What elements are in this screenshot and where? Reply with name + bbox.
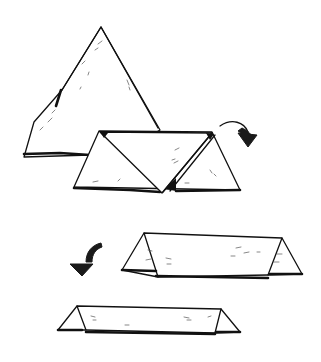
folding-diagram: [0, 0, 321, 362]
step-3-prism: [122, 233, 302, 278]
curved-arrow-left-icon: [70, 243, 102, 276]
step-2-trapezoid: [74, 131, 240, 193]
curved-arrow-right-icon: [220, 122, 257, 147]
step-4-flat-prism: [58, 306, 240, 334]
